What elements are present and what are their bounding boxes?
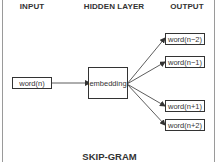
- output-node-n-plus-1: word(n+1): [165, 100, 205, 112]
- hidden-node-embedding: embedding: [88, 67, 128, 99]
- output-node-n-minus-2: word(n−2): [165, 33, 205, 45]
- output-node-n-minus-1: word(n−1): [165, 56, 205, 68]
- edge-embedding-to-n-minus-2: [127, 38, 165, 84]
- edge-embedding-to-n-minus-1: [127, 62, 165, 84]
- output-node-n-plus-2: word(n+2): [165, 119, 205, 131]
- edge-embedding-to-n-plus-2: [127, 84, 165, 125]
- edge-embedding-to-n-plus-1: [127, 84, 165, 106]
- input-node-word-n: word(n): [12, 77, 52, 89]
- diagram-title: SKIP-GRAM: [0, 151, 219, 162]
